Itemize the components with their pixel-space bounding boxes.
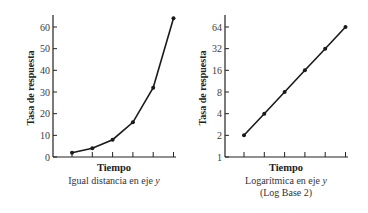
y-axis-title: Tasa de respuesta (25, 50, 36, 125)
figure: 0102030405060 Tasa de respuesta Tiempo I… (0, 0, 368, 213)
y-tick-label: 0 (45, 152, 50, 163)
y-tick-label: 4 (217, 108, 222, 119)
data-point (262, 112, 266, 116)
data-points (70, 16, 176, 154)
linear-scale-chart: 0102030405060 Tasa de respuesta Tiempo I… (25, 15, 176, 186)
y-ticks: 1248163264 (212, 22, 229, 163)
x-axis-title: Tiempo (97, 162, 131, 173)
data-line (244, 27, 346, 135)
data-line (72, 18, 174, 152)
data-point (151, 86, 155, 90)
data-point (90, 146, 94, 150)
data-point (172, 16, 176, 20)
y-tick-label: 32 (212, 43, 222, 54)
data-point (242, 133, 246, 137)
x-axis-title: Tiempo (269, 162, 303, 173)
y-ticks: 0102030405060 (40, 22, 57, 163)
x-ticks (244, 152, 346, 157)
y-tick-label: 2 (217, 130, 222, 141)
data-point (344, 25, 348, 29)
log-scale-chart: 1248163264 Tasa de respuesta Tiempo Loga… (197, 15, 348, 199)
y-tick-label: 16 (212, 65, 222, 76)
y-tick-label: 60 (40, 22, 50, 33)
y-tick-label: 40 (40, 65, 50, 76)
y-tick-label: 10 (40, 130, 50, 141)
data-point (111, 138, 115, 142)
y-tick-label: 20 (40, 108, 50, 119)
y-tick-label: 30 (40, 87, 50, 98)
data-point (283, 90, 287, 94)
data-point (70, 151, 74, 155)
data-point (323, 47, 327, 51)
y-axis-title: Tasa de respuesta (197, 50, 208, 125)
data-point (131, 120, 135, 124)
data-point (303, 68, 307, 72)
y-tick-label: 50 (40, 43, 50, 54)
y-tick-label: 8 (217, 87, 222, 98)
caption-line-1: Logarítmica en eje y (245, 175, 327, 186)
y-tick-label: 1 (217, 152, 222, 163)
y-tick-label: 64 (212, 22, 222, 33)
caption: Igual distancia en eje y (68, 175, 160, 186)
x-ticks (72, 152, 174, 157)
caption-line-2: (Log Base 2) (260, 187, 312, 199)
